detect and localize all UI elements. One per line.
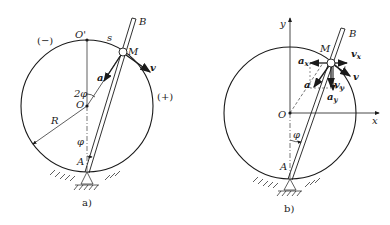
ring-m-a [119,48,127,56]
label-m-a: M [127,46,139,57]
label-a-point-b: A [279,161,287,172]
label-a-a: a [97,72,103,83]
ring-m-b [327,59,335,67]
label-ax: ax [298,55,309,68]
velocity-vector-a [126,55,150,72]
label-b-b: B [348,28,356,39]
label-b-a: B [138,16,146,27]
label-x: x [372,115,378,126]
label-o-b: O [278,109,286,120]
label-v-b: v [353,71,359,82]
label-r: R [50,115,59,126]
label-m-b: M [319,43,331,54]
ground-a [50,170,120,190]
label-phi-b: φ [293,129,300,140]
label-phi-a: φ [77,136,84,147]
label-ay: ay [327,91,338,104]
label-a-point: A [76,156,84,167]
ground-b [253,177,320,196]
label-minus: (−) [37,35,53,46]
figure-b: y x B M ax vx v a vy ay O φ A b) [224,18,379,214]
label-2phi: 2φ [73,88,87,99]
rod-ab-b [288,28,345,180]
label-y: y [279,18,286,29]
label-o-a: O [76,99,84,110]
kinematics-diagram: (−) (+) O' s M B v a 2φ O R φ A a) [0,0,390,225]
label-o-prime: O' [75,29,86,40]
label-s: s [107,32,112,43]
label-a-b: a [304,79,310,90]
label-vx: vx [351,48,362,61]
label-v-a: v [150,62,156,73]
angle-phi-arc-b [290,140,301,142]
label-vy: vy [334,79,345,92]
figure-a: (−) (+) O' s M B v a 2φ O R φ A a) [21,16,173,208]
caption-b: b) [284,203,294,214]
label-plus: (+) [157,91,173,102]
caption-a: a) [82,197,92,208]
